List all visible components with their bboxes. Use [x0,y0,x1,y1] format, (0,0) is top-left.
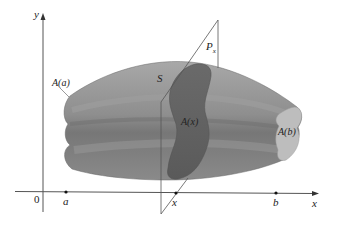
b-label: b [273,196,279,208]
origin-label: 0 [34,193,40,205]
y-axis-arrow-icon [41,13,46,20]
area-b-label: A(b) [277,126,296,138]
area-x-label: A(x) [180,116,199,128]
tick-x [174,191,177,194]
y-axis-label: y [33,8,39,20]
x-axis-arrow-icon [312,191,319,196]
y-axis [41,13,46,212]
leader-a [60,88,69,97]
plane-label: Px [205,40,217,55]
x-point-label: x [171,196,177,208]
tick-a [64,190,67,193]
tick-b [274,191,277,194]
a-label: a [63,195,69,207]
x-axis-label: x [311,197,317,209]
area-a-label: A(a) [51,77,70,89]
solid-volume-diagram: y 0 a x b x S Px A(a) A(x) A(b) [0,0,338,226]
solid-label: S [157,72,163,84]
